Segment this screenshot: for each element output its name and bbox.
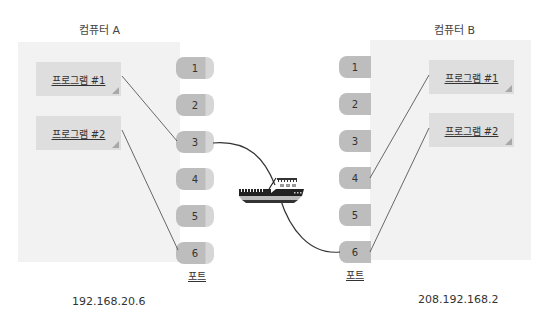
ship-icon xyxy=(236,172,306,210)
connection-lines xyxy=(0,0,545,323)
